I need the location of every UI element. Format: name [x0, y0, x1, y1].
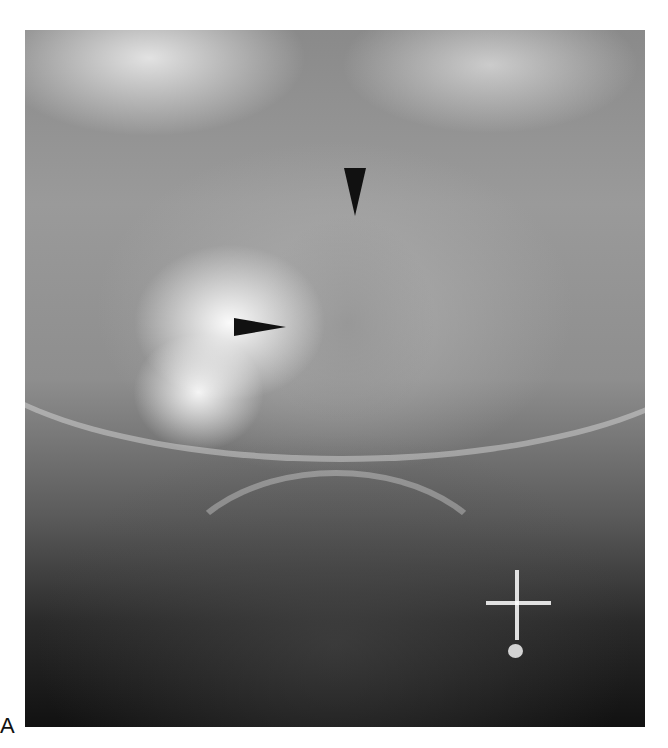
- arrowhead-down-icon: [344, 168, 366, 216]
- crosshair-marker-dot: [508, 644, 523, 658]
- radiograph-image: [25, 30, 645, 727]
- arrowhead-right-icon: [234, 318, 286, 336]
- lower-arch-contour: [165, 470, 507, 702]
- panel-label: A: [0, 713, 15, 739]
- skull-contour: [0, 190, 668, 462]
- crosshair-marker-vertical: [515, 570, 519, 640]
